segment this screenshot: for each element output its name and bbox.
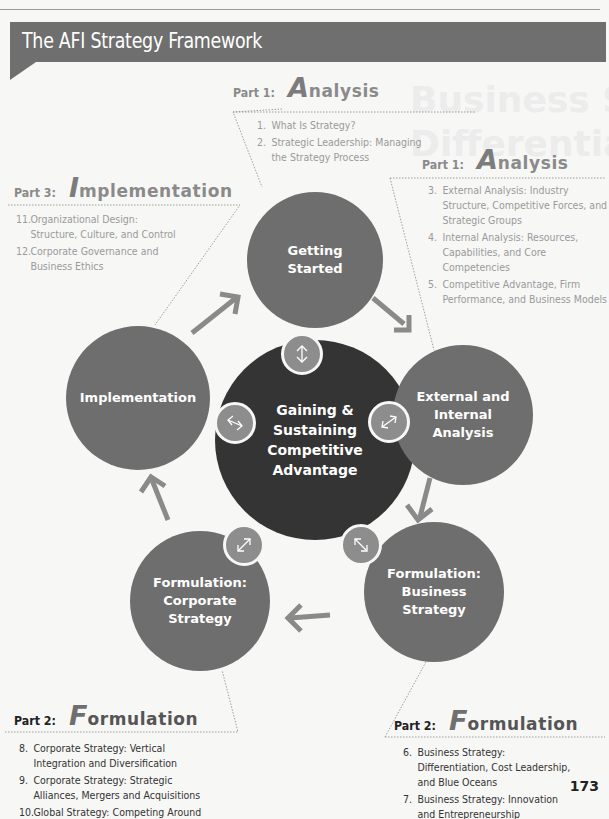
part-prefix: Part 1:: [233, 85, 275, 100]
double-arrow-diagonal-icon: [225, 413, 245, 433]
part-initial: A: [477, 144, 498, 175]
part-initial: F: [449, 705, 467, 736]
part-prefix: Part 1:: [422, 157, 464, 172]
formulation-left-list: 8.Corporate Strategy: Vertical Integrati…: [19, 741, 239, 819]
chapter-item: 3.External Analysis: Industry Structure,…: [428, 183, 608, 228]
chapter-item: 1.What Is Strategy?: [257, 118, 437, 133]
stage-getting-started: GettingStarted: [247, 192, 383, 328]
implementation-list: 11.Organizational Design: Structure, Cul…: [16, 212, 206, 276]
stage-external-internal-analysis: External andInternalAnalysis: [393, 345, 533, 485]
part1-analysis-heading-top: Part 1: Analysis: [233, 72, 380, 103]
part-initial: I: [69, 172, 79, 203]
double-arrow-diagonal-icon: [379, 412, 399, 432]
part-prefix: Part 2:: [394, 718, 436, 733]
chapter-item: 12.Corporate Governance and Business Eth…: [16, 244, 187, 274]
connector-node-bottom-left: [223, 524, 265, 566]
chapter-item: 9.Corporate Strategy: Strategic Alliance…: [19, 773, 217, 803]
chapter-item: 7.Business Strategy: Innovation and Entr…: [403, 792, 574, 819]
part2-formulation-heading-right: Part 2: Formulation: [394, 705, 578, 736]
part-rest: ormulation: [467, 714, 578, 734]
analysis-right-list: 3.External Analysis: Industry Structure,…: [428, 183, 609, 309]
part-rest: ormulation: [87, 709, 198, 729]
part1-analysis-heading-right: Part 1: Analysis: [422, 144, 569, 175]
connector-node-bottom-right: [340, 524, 382, 566]
connector-node-right: [368, 401, 410, 443]
connector-node-left: [214, 402, 256, 444]
part-initial: A: [288, 72, 309, 103]
connector-node-top: [281, 333, 323, 375]
part-rest: nalysis: [309, 81, 380, 101]
chapter-item: 2.Strategic Leadership: Managing the Str…: [257, 135, 437, 165]
double-arrow-diagonal-icon: [234, 535, 254, 555]
part-prefix: Part 2:: [14, 713, 56, 728]
formulation-right-list: 6.Business Strategy: Differentiation, Co…: [403, 745, 593, 819]
chapter-item: 5.Competitive Advantage, Firm Performanc…: [428, 277, 608, 307]
stage-implementation: Implementation: [66, 326, 210, 470]
part-prefix: Part 3:: [14, 185, 56, 200]
chapter-item: 10.Global Strategy: Competing Around: [19, 805, 217, 819]
chapter-item: 8.Corporate Strategy: Vertical Integrati…: [19, 741, 217, 771]
double-arrow-diagonal-icon: [351, 535, 371, 555]
part-rest: nalysis: [498, 153, 569, 173]
part2-formulation-heading-left: Part 2: Formulation: [14, 700, 198, 731]
page-number: 173: [570, 778, 599, 794]
part-initial: F: [69, 700, 87, 731]
double-arrow-vertical-icon: [292, 344, 312, 364]
part-rest: mplementation: [79, 181, 233, 201]
chapter-item: 4.Internal Analysis: Resources, Capabili…: [428, 230, 608, 275]
chapter-item: 6.Business Strategy: Differentiation, Co…: [403, 745, 574, 790]
chapter-item: 11.Organizational Design: Structure, Cul…: [16, 212, 187, 242]
part3-implementation-heading: Part 3: Implementation: [14, 172, 233, 203]
stage-formulation-business: Formulation:BusinessStrategy: [364, 522, 504, 662]
